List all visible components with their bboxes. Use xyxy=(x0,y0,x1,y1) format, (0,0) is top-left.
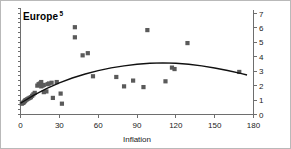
x-axis-title: Inflation xyxy=(123,135,151,144)
scatter-plot: 0306090120150180 01234567 Inflation xyxy=(1,1,291,149)
x-tick-label: 180 xyxy=(247,121,261,130)
data-point xyxy=(42,83,46,87)
data-point xyxy=(49,81,53,85)
left-axis xyxy=(18,9,21,115)
data-point xyxy=(185,41,189,45)
axis-labels: Inflation xyxy=(123,135,151,144)
x-tick-label: 0 xyxy=(18,121,23,130)
data-point xyxy=(60,102,64,106)
x-axis: 0306090120150180 xyxy=(18,115,260,130)
data-point xyxy=(122,84,126,88)
data-point xyxy=(81,53,85,57)
data-point xyxy=(114,75,118,79)
y-tick-label: 2 xyxy=(259,82,264,91)
data-point xyxy=(51,96,55,100)
data-point xyxy=(163,79,167,83)
y-tick-label: 4 xyxy=(259,53,264,62)
y-tick-label: 1 xyxy=(259,96,264,105)
x-tick-label: 150 xyxy=(208,121,222,130)
x-tick-label: 90 xyxy=(133,121,142,130)
y-tick-label: 0 xyxy=(259,111,264,120)
y-tick-label: 6 xyxy=(259,24,264,33)
x-tick-label: 60 xyxy=(94,121,103,130)
y-tick-label: 3 xyxy=(259,67,264,76)
data-point xyxy=(73,25,77,29)
x-tick-label: 120 xyxy=(169,121,183,130)
data-point xyxy=(59,91,63,95)
y-axis-right: 01234567 xyxy=(254,10,265,120)
y-tick-label: 5 xyxy=(259,38,264,47)
data-point xyxy=(131,78,135,82)
data-point xyxy=(86,51,90,55)
y-tick-label: 7 xyxy=(259,10,264,19)
data-point xyxy=(172,67,176,71)
data-point xyxy=(73,35,77,39)
chart-figure: Europe5 0306090120150180 01234567 Inflat… xyxy=(0,0,291,149)
data-point xyxy=(91,74,95,78)
data-point xyxy=(145,28,149,32)
x-tick-label: 30 xyxy=(55,121,64,130)
data-point xyxy=(141,85,145,89)
